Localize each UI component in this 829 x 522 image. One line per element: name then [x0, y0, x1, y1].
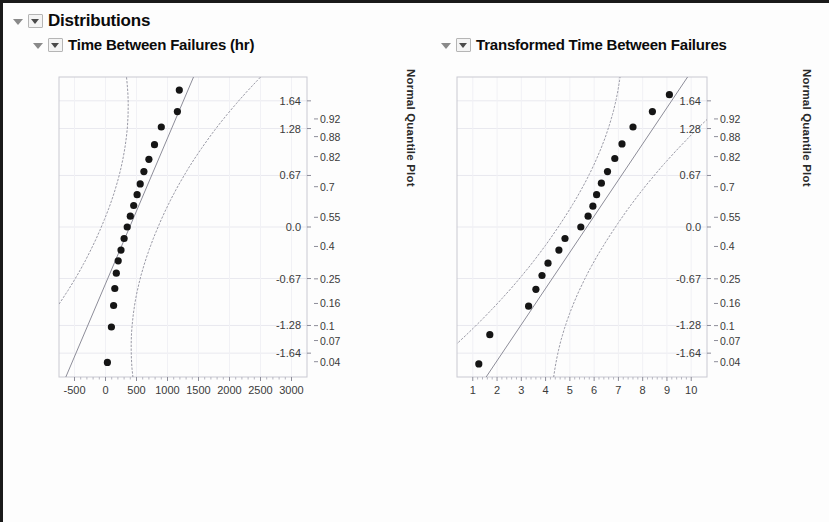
svg-text:8: 8	[640, 384, 646, 396]
svg-text:1.28: 1.28	[280, 123, 301, 135]
svg-text:1.64: 1.64	[280, 95, 301, 107]
svg-text:3000: 3000	[279, 384, 303, 396]
svg-text:-1.64: -1.64	[676, 347, 701, 359]
svg-text:-0.67: -0.67	[276, 273, 301, 285]
svg-text:-1.28: -1.28	[276, 319, 301, 331]
svg-text:-1.64: -1.64	[276, 347, 301, 359]
page-title: Distributions	[48, 11, 150, 31]
svg-text:6: 6	[591, 384, 597, 396]
outline-row-time-between-failures[interactable]: Time Between Failures (hr)	[33, 36, 254, 53]
outline-row-distributions[interactable]: Distributions	[13, 11, 150, 31]
svg-text:0.07: 0.07	[320, 335, 341, 347]
distributions-window: Distributions Time Between Failures (hr)…	[0, 0, 829, 522]
svg-text:0: 0	[102, 384, 108, 396]
svg-text:1: 1	[470, 384, 476, 396]
svg-text:0.88: 0.88	[720, 131, 741, 143]
triangle-down-icon[interactable]	[441, 43, 451, 49]
svg-text:7: 7	[615, 384, 621, 396]
svg-text:0.07: 0.07	[720, 335, 741, 347]
svg-text:2000: 2000	[217, 384, 241, 396]
svg-text:0.0: 0.0	[286, 221, 301, 233]
svg-text:0.4: 0.4	[720, 240, 735, 252]
svg-text:5: 5	[567, 384, 573, 396]
svg-text:0.1: 0.1	[320, 320, 335, 332]
svg-text:2: 2	[494, 384, 500, 396]
svg-text:0.1: 0.1	[720, 320, 735, 332]
boxed-triangle-down-icon[interactable]	[28, 14, 43, 28]
svg-text:0.92: 0.92	[720, 113, 741, 125]
svg-text:0.7: 0.7	[720, 181, 735, 193]
triangle-down-icon[interactable]	[13, 19, 23, 25]
svg-text:4: 4	[543, 384, 549, 396]
svg-text:0.88: 0.88	[320, 131, 341, 143]
panel-title-right: Transformed Time Between Failures	[476, 36, 727, 53]
data-points	[475, 91, 673, 367]
panel-title-left: Time Between Failures (hr)	[68, 36, 254, 53]
quantile-plot-svg-left: -5000500100015002000250030001.641.280.67…	[21, 61, 421, 401]
svg-text:-1.28: -1.28	[676, 319, 701, 331]
svg-text:0.55: 0.55	[720, 211, 741, 223]
y-axis-title-left: Normal Quantile Plot	[405, 69, 417, 187]
triangle-down-icon[interactable]	[33, 43, 43, 49]
svg-text:0.67: 0.67	[680, 169, 701, 181]
svg-text:0.82: 0.82	[320, 151, 341, 163]
boxed-triangle-down-icon[interactable]	[456, 38, 471, 52]
outline-row-transformed-time-between-failures[interactable]: Transformed Time Between Failures	[441, 36, 727, 53]
svg-text:-0.67: -0.67	[676, 273, 701, 285]
svg-text:0.0: 0.0	[686, 221, 701, 233]
svg-text:0.4: 0.4	[320, 240, 335, 252]
svg-text:0.25: 0.25	[320, 273, 341, 285]
svg-text:1.64: 1.64	[680, 95, 701, 107]
svg-text:0.16: 0.16	[720, 297, 741, 309]
svg-text:0.04: 0.04	[720, 356, 741, 368]
svg-text:500: 500	[127, 384, 145, 396]
svg-text:0.92: 0.92	[320, 113, 341, 125]
svg-text:-500: -500	[63, 384, 85, 396]
svg-text:3: 3	[518, 384, 524, 396]
svg-text:0.25: 0.25	[720, 273, 741, 285]
normal-quantile-plot-left: -5000500100015002000250030001.641.280.67…	[21, 61, 421, 401]
svg-text:0.67: 0.67	[280, 169, 301, 181]
normal-quantile-plot-right: 123456789101.641.280.670.0-0.67-1.28-1.6…	[429, 61, 829, 401]
y-axis-title-right: Normal Quantile Plot	[801, 69, 813, 187]
svg-text:0.55: 0.55	[320, 211, 341, 223]
svg-text:0.82: 0.82	[720, 151, 741, 163]
boxed-triangle-down-icon[interactable]	[48, 38, 63, 52]
svg-text:0.7: 0.7	[320, 181, 335, 193]
svg-text:1.28: 1.28	[680, 123, 701, 135]
svg-text:10: 10	[685, 384, 697, 396]
svg-text:0.04: 0.04	[320, 356, 341, 368]
svg-text:2500: 2500	[248, 384, 272, 396]
svg-text:1000: 1000	[155, 384, 179, 396]
svg-text:0.16: 0.16	[320, 297, 341, 309]
svg-text:1500: 1500	[186, 384, 210, 396]
quantile-plot-svg-right: 123456789101.641.280.670.0-0.67-1.28-1.6…	[429, 61, 829, 401]
svg-text:9: 9	[664, 384, 670, 396]
